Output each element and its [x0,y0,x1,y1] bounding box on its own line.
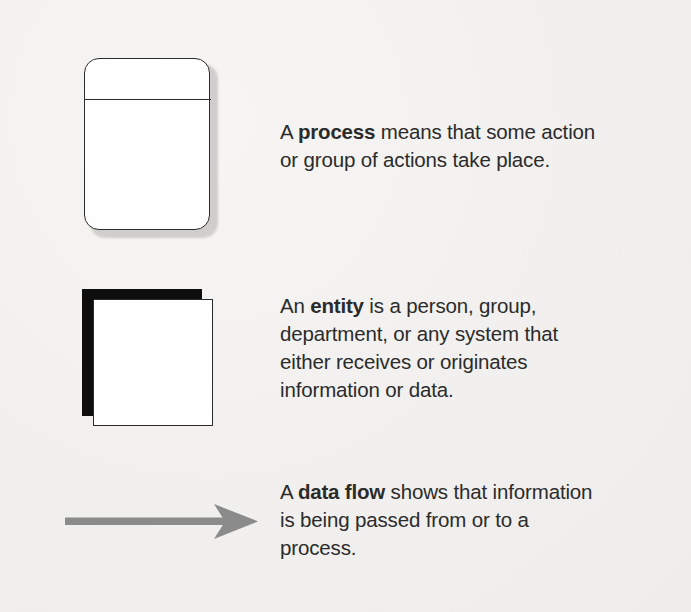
process-description: A process means that some action or grou… [280,118,620,174]
legend-page: A process means that some action or grou… [0,0,691,612]
data-flow-description-line-2: is being passed from or to a [280,506,620,534]
process-shape-outline [84,58,210,230]
process-shape-divider [85,99,211,100]
entity-keyword: entity [310,294,363,317]
data-flow-keyword: data flow [298,480,385,503]
entity-description-line-2: department, or any system that [280,320,620,348]
entity-shape-front-square [93,299,213,426]
entity-symbol [82,289,216,429]
data-flow-description-line-3: process. [280,534,620,562]
right-arrow-icon [62,496,267,550]
entity-description-line-1: An entity is a person, group, [280,292,620,320]
entity-description-line-3: either receives or originates [280,348,620,376]
data-flow-description-line-1: A data flow shows that information [280,478,620,506]
entity-description: An entity is a person, group, department… [280,292,620,404]
process-keyword: process [298,120,375,143]
data-flow-description: A data flow shows that information is be… [280,478,620,562]
process-description-line-2: or group of actions take place. [280,146,620,174]
process-description-line-1: A process means that some action [280,118,620,146]
entity-description-line-4: information or data. [280,376,620,404]
process-symbol [84,58,220,240]
data-flow-symbol [62,496,267,550]
